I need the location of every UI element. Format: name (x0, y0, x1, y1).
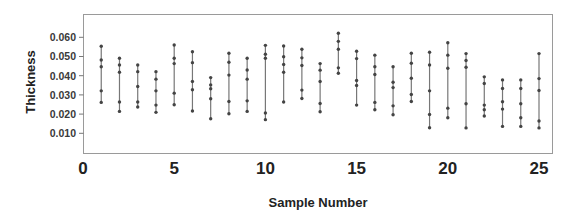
data-point (410, 52, 413, 55)
data-point (282, 71, 285, 74)
sample-group (464, 52, 467, 130)
x-axis-title: Sample Number (269, 195, 368, 210)
sample-group (519, 78, 522, 128)
y-tick-label: 0.050 (50, 50, 76, 62)
data-point (191, 109, 194, 112)
data-point (428, 63, 431, 66)
data-series (100, 32, 541, 130)
data-point (209, 76, 212, 79)
sample-group (318, 62, 321, 114)
data-point (173, 62, 176, 65)
data-point (446, 53, 449, 56)
sample-group (483, 75, 486, 118)
sample-group (154, 70, 157, 114)
data-point (355, 103, 358, 106)
data-point (264, 111, 267, 114)
data-point (410, 62, 413, 65)
data-point (264, 118, 267, 121)
data-point (501, 87, 504, 90)
sample-group (537, 52, 540, 130)
data-point (209, 97, 212, 100)
data-point (118, 63, 121, 66)
sample-group (282, 44, 285, 103)
y-tick-label: 0.030 (50, 89, 76, 101)
data-point (227, 61, 230, 64)
sample-group (136, 63, 139, 108)
sample-group (173, 43, 176, 106)
data-point (245, 77, 248, 80)
data-point (136, 70, 139, 73)
data-point (209, 117, 212, 120)
data-point (100, 65, 103, 68)
data-point (154, 89, 157, 92)
data-point (318, 62, 321, 65)
data-point (300, 56, 303, 59)
data-point (373, 65, 376, 68)
data-point (154, 111, 157, 114)
data-point (446, 67, 449, 70)
sample-group (337, 32, 340, 75)
data-point (373, 108, 376, 111)
data-point (337, 48, 340, 51)
x-tick-label: 15 (347, 159, 366, 178)
data-point (410, 76, 413, 79)
plot-frame (84, 15, 553, 154)
data-point (464, 102, 467, 105)
data-point (264, 57, 267, 60)
data-point (337, 72, 340, 75)
data-point (191, 88, 194, 91)
sample-group (209, 76, 212, 120)
data-point (537, 126, 540, 129)
data-point (100, 58, 103, 61)
y-tick-label: 0.040 (50, 70, 76, 82)
data-point (519, 125, 522, 128)
data-point (355, 50, 358, 53)
data-point (173, 43, 176, 46)
y-tick-label: 0.060 (50, 31, 76, 43)
data-point (245, 57, 248, 60)
data-point (136, 105, 139, 108)
data-point (483, 82, 486, 85)
data-point (519, 87, 522, 90)
data-point (227, 100, 230, 103)
data-point (501, 100, 504, 103)
data-point (428, 113, 431, 116)
data-point (264, 44, 267, 47)
data-point (337, 40, 340, 43)
x-tick-label: 10 (256, 159, 275, 178)
data-point (118, 110, 121, 113)
data-point (446, 116, 449, 119)
sample-group (118, 57, 121, 114)
data-point (227, 52, 230, 55)
data-point (355, 79, 358, 82)
data-point (446, 106, 449, 109)
data-point (483, 108, 486, 111)
y-tick-label: 0.020 (50, 108, 76, 120)
data-point (537, 89, 540, 92)
data-point (154, 103, 157, 106)
data-point (337, 32, 340, 35)
data-point (464, 126, 467, 129)
data-point (191, 80, 194, 83)
data-point (154, 70, 157, 73)
data-point (391, 104, 394, 107)
data-point (264, 52, 267, 55)
data-point (446, 41, 449, 44)
data-point (318, 80, 321, 83)
sample-group (300, 48, 303, 101)
data-point (464, 66, 467, 69)
x-tick-label: 0 (78, 159, 87, 178)
data-point (355, 84, 358, 87)
x-tick-label: 25 (530, 159, 549, 178)
data-point (282, 63, 285, 66)
sample-group (264, 44, 267, 122)
data-point (519, 78, 522, 81)
data-point (318, 110, 321, 113)
data-point (118, 100, 121, 103)
data-point (519, 102, 522, 105)
data-point (300, 97, 303, 100)
sample-group (391, 65, 394, 116)
data-point (100, 101, 103, 104)
data-point (300, 88, 303, 91)
data-point (483, 75, 486, 78)
